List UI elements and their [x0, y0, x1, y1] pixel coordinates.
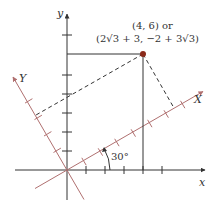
angle-label: 30° — [111, 151, 129, 162]
x-axis-label: x — [199, 176, 206, 189]
point-marker — [140, 51, 146, 57]
rotated-axes-diagram: y x Y X 30° (4, 6) or (2√3 + 3, −2 + 3√3… — [0, 0, 214, 210]
point-label-xy: (4, 6) or — [132, 20, 173, 31]
rotated-x-axis — [35, 92, 203, 189]
rotated-x-label: X — [193, 93, 203, 106]
point-label-XY: (2√3 + 3, −2 + 3√3) — [96, 33, 199, 44]
y-axis-label: y — [56, 7, 64, 20]
rotated-y-label: Y — [19, 72, 28, 85]
